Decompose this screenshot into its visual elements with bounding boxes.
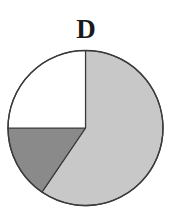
pie-slice-3 [8, 51, 86, 129]
pie-slices [8, 51, 163, 206]
pie-chart [0, 0, 182, 221]
